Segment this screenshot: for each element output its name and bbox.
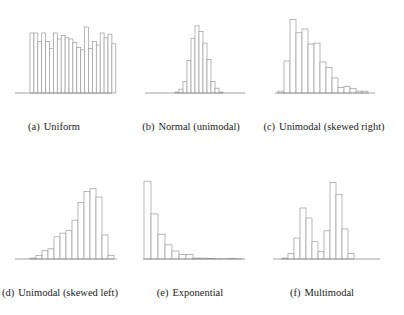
caption-e: (e)Exponential <box>157 287 223 298</box>
histogram-bar <box>211 81 215 93</box>
histogram-bar <box>199 32 203 93</box>
histogram-bar <box>195 26 199 93</box>
histogram-bar <box>50 49 54 93</box>
histogram-bar <box>203 43 207 93</box>
histogram-bar <box>186 255 193 259</box>
histogram-bar <box>294 238 300 259</box>
caption-text: Uniform <box>44 121 80 132</box>
histogram-bar <box>191 38 195 93</box>
histogram-bar <box>100 33 104 93</box>
histogram-bar <box>96 45 100 93</box>
histogram-bar <box>320 62 326 93</box>
histogram-bar <box>54 237 60 259</box>
histogram-bar <box>332 78 338 93</box>
histogram-bar <box>61 35 65 93</box>
caption-text: Unimodal (skewed left) <box>18 287 118 298</box>
histogram-bar <box>108 255 114 259</box>
histogram-bar <box>302 29 308 93</box>
histogram-bar <box>66 230 72 259</box>
histogram-bar <box>38 41 42 93</box>
caption-tag: (d) <box>2 287 14 298</box>
histogram-bar <box>60 233 66 259</box>
histogram-bar <box>92 41 96 93</box>
histogram-bar <box>158 234 165 259</box>
histogram-bar <box>187 60 191 93</box>
histogram-bar <box>336 194 342 259</box>
histogram-bar <box>90 189 96 259</box>
caption-tag: (f) <box>290 287 301 298</box>
histogram-bar <box>318 252 324 259</box>
histogram-bar <box>108 34 112 93</box>
histogram-bar <box>342 229 348 259</box>
panel-f-multimodal <box>273 182 380 259</box>
histogram-bar <box>69 39 73 93</box>
caption-tag: (c) <box>263 121 275 132</box>
caption-d: (d)Unimodal (skewed left) <box>2 287 118 298</box>
histogram-bar <box>77 47 81 93</box>
histogram-bar <box>179 89 183 93</box>
histogram-bar <box>344 86 350 93</box>
caption-c: (c)Unimodal (skewed right) <box>263 121 384 132</box>
caption-tag: (e) <box>157 287 169 298</box>
histogram-bar <box>42 251 48 259</box>
caption-a: (a)Uniform <box>28 121 80 132</box>
histogram-bar <box>308 44 314 93</box>
histogram-bar <box>53 33 57 93</box>
histogram-bar <box>151 214 158 259</box>
caption-tag: (a) <box>28 121 40 132</box>
histogram-bar <box>112 44 116 93</box>
histogram-bar <box>78 203 84 259</box>
histogram-bar <box>85 27 89 93</box>
histogram-bar <box>306 218 312 259</box>
histogram-bar <box>172 251 179 259</box>
histogram-bar <box>34 33 38 93</box>
histogram-bar <box>314 43 320 93</box>
histogram-bar <box>36 255 42 259</box>
histogram-bar <box>30 33 34 93</box>
histogram-bar <box>183 81 187 93</box>
panel-b-normal <box>145 26 245 93</box>
caption-f: (f)Multimodal <box>290 287 354 298</box>
histogram-bar <box>46 41 50 93</box>
histogram-bar <box>348 254 354 259</box>
histogram-bar <box>72 220 78 259</box>
histogram-bar <box>42 33 46 93</box>
histogram-bar <box>330 182 336 259</box>
histogram-bar <box>207 59 211 93</box>
histogram-bar <box>104 38 108 93</box>
histogram-bar <box>350 88 356 93</box>
histogram-bar <box>57 39 61 93</box>
histogram-bar <box>288 254 294 259</box>
panel-a-uniform <box>15 27 116 93</box>
caption-text: Normal (unimodal) <box>158 121 239 132</box>
histogram-bar <box>300 208 306 259</box>
histogram-bar <box>81 50 85 93</box>
caption-b: (b)Normal (unimodal) <box>142 121 240 132</box>
caption-tag: (b) <box>142 121 154 132</box>
caption-text: Exponential <box>172 287 223 298</box>
caption-text: Unimodal (skewed right) <box>279 121 385 132</box>
histogram-bar <box>65 38 69 93</box>
histogram-bar <box>290 20 296 93</box>
histogram-bar <box>144 181 151 259</box>
histogram-bar <box>73 43 77 93</box>
histogram-bar <box>96 197 102 259</box>
histogram-bar <box>48 249 54 259</box>
panel-e-exponential <box>143 181 245 259</box>
histogram-bar <box>179 255 186 259</box>
panel-d-skewed-left <box>15 189 117 259</box>
histogram-bar <box>102 235 108 259</box>
histogram-bar <box>312 242 318 259</box>
histogram-figure <box>0 0 404 315</box>
caption-text: Multimodal <box>304 287 354 298</box>
histogram-bar <box>84 191 90 259</box>
histogram-bar <box>324 231 330 259</box>
histogram-bar <box>165 245 172 259</box>
histogram-bar <box>89 49 93 93</box>
histogram-bar <box>326 68 332 93</box>
histogram-bar <box>215 88 219 93</box>
histogram-bar <box>296 33 302 93</box>
histogram-bar <box>284 61 290 93</box>
panel-c-skewed-right <box>275 20 375 93</box>
histogram-bar <box>338 87 344 93</box>
